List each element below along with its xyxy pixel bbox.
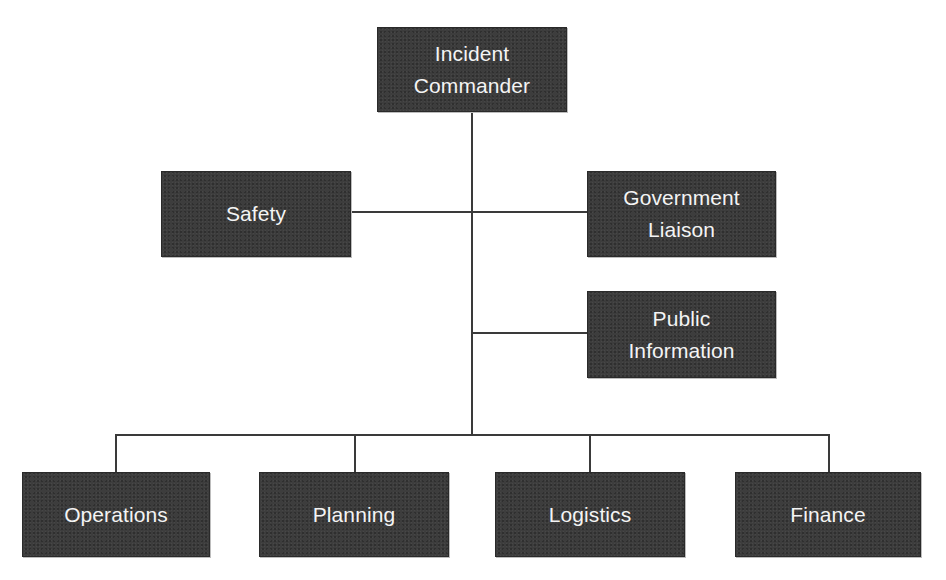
public-information-connector	[471, 332, 588, 334]
node-incident-commander: Incident Commander	[377, 27, 567, 112]
node-safety: Safety	[161, 171, 351, 257]
node-government-liaison: Government Liaison	[587, 171, 776, 257]
node-planning: Planning	[259, 472, 449, 557]
operations-drop	[115, 434, 117, 472]
node-label: Logistics	[549, 499, 632, 531]
safety-liaison-connector	[350, 211, 588, 213]
trunk-line	[471, 111, 473, 436]
general-staff-bus	[115, 434, 830, 436]
node-logistics: Logistics	[495, 472, 685, 557]
node-label: Government Liaison	[623, 182, 740, 246]
node-operations: Operations	[22, 472, 210, 557]
node-label: Operations	[64, 499, 168, 531]
node-label: Incident Commander	[414, 38, 530, 102]
finance-drop	[828, 434, 830, 472]
node-label: Planning	[313, 499, 396, 531]
node-label: Public Information	[628, 303, 734, 367]
node-label: Safety	[226, 198, 286, 230]
logistics-drop	[589, 434, 591, 472]
node-label: Finance	[790, 499, 865, 531]
node-finance: Finance	[735, 472, 921, 557]
org-chart: Incident Commander Safety Government Lia…	[0, 0, 946, 580]
planning-drop	[354, 434, 356, 472]
node-public-information: Public Information	[587, 291, 776, 378]
